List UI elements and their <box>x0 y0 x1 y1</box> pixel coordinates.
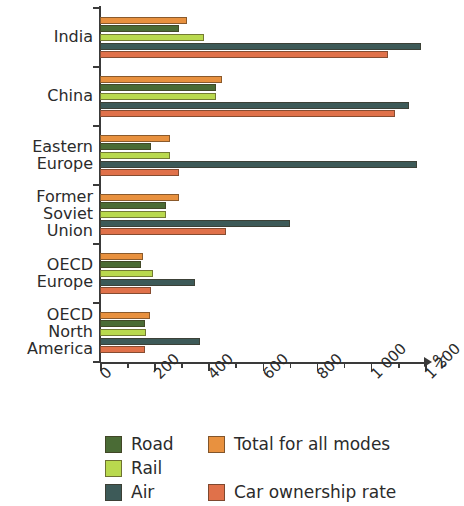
legend-item[interactable]: Total for all modes <box>208 434 390 454</box>
bar <box>100 51 388 58</box>
bar <box>100 161 417 168</box>
category-label-line: Soviet <box>36 205 93 222</box>
bar <box>100 84 216 91</box>
y-axis-tick <box>93 125 101 127</box>
bar <box>100 228 226 235</box>
bar <box>100 110 395 117</box>
bar <box>100 211 166 218</box>
legend-label: Rail <box>131 458 162 478</box>
category-label-line: Union <box>36 222 93 239</box>
legend-swatch-icon <box>105 460 122 477</box>
bar <box>100 43 421 50</box>
x-axis-tick-label: 200 <box>150 350 183 383</box>
y-axis-category-label: OECDEurope <box>37 256 93 290</box>
bar <box>100 17 187 24</box>
bar <box>100 202 166 209</box>
legend-label: Car ownership rate <box>234 482 396 502</box>
x-axis-tick-label: 800 <box>313 350 346 383</box>
bar <box>100 93 216 100</box>
chart-legend: RoadRailAirTotal for all modesCar owners… <box>105 434 445 504</box>
bar <box>100 346 145 353</box>
x-axis-minor-tick <box>127 363 129 368</box>
bar <box>100 220 290 227</box>
category-label-line: America <box>27 340 93 357</box>
legend-swatch-icon <box>105 484 122 501</box>
bar <box>100 102 409 109</box>
legend-item[interactable]: Car ownership rate <box>208 482 396 502</box>
bar <box>100 253 143 260</box>
x-axis-tick-label: 0 <box>96 363 115 382</box>
category-label-line: North <box>27 323 93 340</box>
bar <box>100 143 151 150</box>
category-label-line: Eastern <box>32 138 93 155</box>
bar <box>100 34 204 41</box>
y-axis-tick <box>93 7 101 9</box>
legend-swatch-icon <box>105 436 122 453</box>
category-label-line: Europe <box>37 273 93 290</box>
category-label-line: India <box>54 28 93 45</box>
y-axis-category-label: EasternEurope <box>32 138 93 172</box>
legend-swatch-icon <box>208 484 225 501</box>
y-axis-tick <box>93 66 101 68</box>
bar <box>100 25 179 32</box>
legend-item[interactable]: Road <box>105 434 174 454</box>
legend-item[interactable]: Rail <box>105 458 162 478</box>
category-label-line: Former <box>36 188 93 205</box>
y-axis-tick <box>93 184 101 186</box>
category-label-line: OECD <box>37 256 93 273</box>
legend-swatch-icon <box>208 436 225 453</box>
y-axis-tick <box>93 302 101 304</box>
bar <box>100 329 146 336</box>
bar <box>100 312 150 319</box>
x-axis-tick-label: 400 <box>204 350 237 383</box>
y-axis-category-label: OECDNorthAmerica <box>27 306 93 357</box>
category-label-line: OECD <box>27 306 93 323</box>
bar <box>100 135 170 142</box>
bar <box>100 169 179 176</box>
y-axis-category-label: FormerSovietUnion <box>36 188 93 239</box>
bar <box>100 338 200 345</box>
bar <box>100 76 222 83</box>
y-axis-category-label: India <box>54 28 93 45</box>
y-axis-category-label: China <box>47 87 93 104</box>
bar <box>100 287 151 294</box>
bar <box>100 270 153 277</box>
legend-item[interactable]: Air <box>105 482 154 502</box>
bar <box>100 320 145 327</box>
bar <box>100 194 179 201</box>
bar <box>100 279 195 286</box>
category-label-line: China <box>47 87 93 104</box>
legend-label: Road <box>131 434 174 454</box>
y-axis-tick <box>93 243 101 245</box>
category-label-line: Europe <box>32 155 93 172</box>
bar <box>100 152 170 159</box>
bar <box>100 261 141 268</box>
plot-area: % 02004006008001 0001 200 IndiaChinaEast… <box>0 0 456 366</box>
legend-label: Air <box>131 482 154 502</box>
legend-label: Total for all modes <box>234 434 390 454</box>
x-axis-tick-label: 600 <box>259 350 292 383</box>
